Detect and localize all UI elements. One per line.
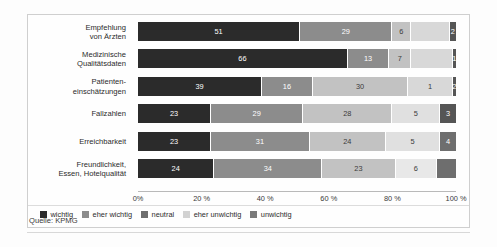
bar-segment — [411, 22, 449, 41]
bar-row: Empfehlungvon Ärzten512962 — [28, 19, 469, 45]
bar-segment: 28 — [303, 104, 392, 123]
category-label: MedizinischeQualitätsdaten — [28, 46, 132, 72]
axis-tick-label: 20 % — [193, 194, 210, 203]
bar-segment: 24 — [310, 132, 386, 151]
legend-label: neutral — [152, 210, 175, 219]
legend-item[interactable]: eher wichtig — [82, 210, 132, 219]
legend-swatch-icon — [183, 211, 190, 218]
legend-label: eher wichtig — [93, 210, 132, 219]
bar-segment: 2 — [450, 22, 456, 41]
category-label: Fallzahlen — [28, 101, 132, 127]
stacked-bar: 512962 — [138, 22, 456, 41]
category-label-line: Fallzahlen — [91, 109, 126, 118]
bar-segment: 13 — [348, 49, 389, 68]
bar-segment: 23 — [138, 132, 211, 151]
category-label-line: Essen, Hotelqualität — [58, 169, 126, 178]
category-label-line: Qualitätsdaten — [77, 59, 126, 68]
axis-tick-label: 0% — [133, 194, 144, 203]
bar-segment: 29 — [211, 104, 303, 123]
axis-tick-label: 40 % — [257, 194, 274, 203]
bar-segment: 24 — [138, 159, 214, 178]
legend-label: unwichtig — [261, 210, 292, 219]
bar-row: Patienten-einschätzungen39163012 — [28, 74, 469, 100]
stacked-bar: 23312454 — [138, 132, 456, 151]
stacked-bar: 661371 — [138, 49, 456, 68]
bar-row: MedizinischeQualitätsdaten661371 — [28, 46, 469, 72]
bar-row: Freundlichkeit,Essen, Hotelqualität24342… — [28, 156, 469, 182]
bar-row: Fallzahlen23292853 — [28, 101, 469, 127]
bar-segment: 30 — [313, 77, 408, 96]
axis-tick-label: 60 % — [320, 194, 337, 203]
x-axis-line — [138, 191, 456, 192]
bar-segment: 5 — [386, 132, 440, 151]
bar-segment — [411, 49, 452, 68]
legend-swatch-icon — [82, 211, 89, 218]
legend-separator — [28, 205, 469, 206]
bar-row: Erreichbarkeit23312454 — [28, 129, 469, 155]
bar-segment: 6 — [392, 22, 411, 41]
bar-segment: 29 — [300, 22, 392, 41]
legend-item[interactable]: eher unwichtig — [183, 210, 241, 219]
stacked-bar: 23292853 — [138, 104, 456, 123]
bar-segment: 1 — [408, 77, 453, 96]
category-label: Patienten-einschätzungen — [28, 74, 132, 100]
legend-swatch-icon — [141, 211, 148, 218]
category-label-line: Erreichbarkeit — [79, 137, 126, 146]
bar-segment — [437, 159, 456, 178]
plot-area: Empfehlungvon Ärzten512962MedizinischeQu… — [28, 15, 469, 187]
category-label: Freundlichkeit,Essen, Hotelqualität — [28, 156, 132, 182]
legend-item[interactable]: neutral — [141, 210, 174, 219]
category-label-line: einschätzungen — [73, 87, 126, 96]
bar-segment: 34 — [214, 159, 322, 178]
axis-tick-label: 100 % — [446, 194, 467, 203]
bar-segment: 16 — [262, 77, 313, 96]
bar-segment: 6 — [396, 159, 437, 178]
axis-tick-label: 80 % — [384, 194, 401, 203]
bar-segment: 3 — [440, 104, 456, 123]
bar-segment: 39 — [138, 77, 262, 96]
stacked-bar: 2434236 — [138, 159, 456, 178]
stacked-bar: 39163012 — [138, 77, 456, 96]
bar-segment: 66 — [138, 49, 348, 68]
category-label-line: Medizinische — [82, 50, 126, 59]
cropped-heading-text — [152, 0, 332, 9]
category-label-line: von Ärzten — [90, 32, 126, 41]
bar-segment: 1 — [453, 49, 456, 68]
legend-item[interactable]: unwichtig — [250, 210, 291, 219]
chart-frame: Empfehlungvon Ärzten512962MedizinischeQu… — [27, 14, 470, 228]
category-label-line: Freundlichkeit, — [77, 160, 126, 169]
category-label-line: Patienten- — [91, 77, 126, 86]
bar-segment: 23 — [138, 104, 211, 123]
category-label: Empfehlungvon Ärzten — [28, 19, 132, 45]
bar-segment: 5 — [392, 104, 440, 123]
bottom-rule — [27, 232, 470, 233]
bar-segment: 2 — [453, 77, 456, 96]
bar-segment: 31 — [211, 132, 310, 151]
category-label-line: Empfehlung — [85, 23, 126, 32]
category-label: Erreichbarkeit — [28, 129, 132, 155]
chart-page: Empfehlungvon Ärzten512962MedizinischeQu… — [0, 0, 497, 247]
legend-label: eher unwichtig — [194, 210, 242, 219]
bar-segment: 51 — [138, 22, 300, 41]
bar-segment: 7 — [389, 49, 411, 68]
bar-segment: 4 — [440, 132, 456, 151]
source-note: Quelle: KPMG — [29, 216, 78, 225]
legend-swatch-icon — [250, 211, 257, 218]
bar-rows: Empfehlungvon Ärzten512962MedizinischeQu… — [28, 19, 469, 183]
bar-segment: 23 — [322, 159, 395, 178]
